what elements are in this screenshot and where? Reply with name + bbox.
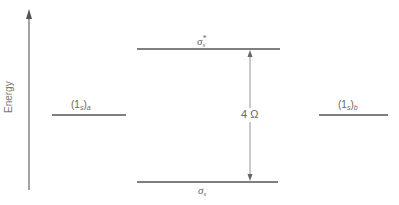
label-antibonding: σs* <box>197 34 206 49</box>
label-atomic-b: (1s)b <box>338 99 358 111</box>
label-atomic-a: (1s)a <box>71 99 91 111</box>
splitting-label: 4 Ω <box>241 108 258 120</box>
energy-axis-label: Energy <box>3 81 14 113</box>
splitting-arrow-up-icon <box>248 50 253 57</box>
label-bonding: σs <box>198 184 206 198</box>
energy-axis-arrowhead-icon <box>26 9 32 19</box>
splitting-arrow-down-icon <box>248 174 253 181</box>
